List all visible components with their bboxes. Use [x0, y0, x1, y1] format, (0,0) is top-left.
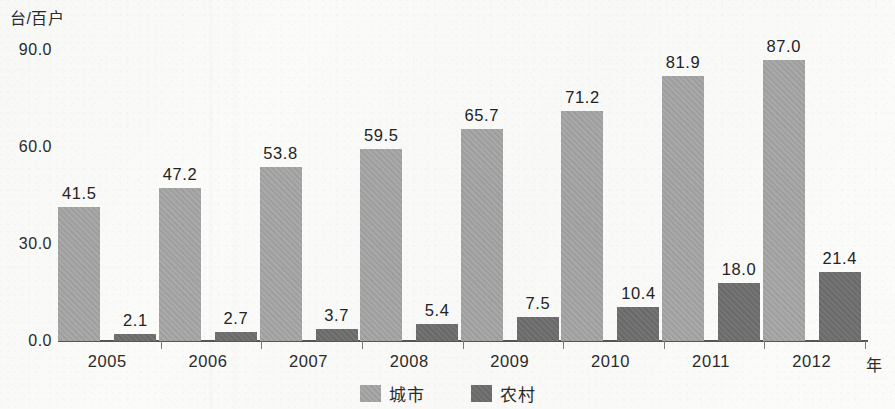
bar-value-label: 2.1: [123, 311, 148, 330]
bar-group: 81.918.0: [664, 50, 765, 341]
y-axis-tick-label: 60.0: [0, 138, 52, 156]
bar-city: 71.2: [561, 50, 603, 341]
x-axis-tick: [764, 341, 765, 349]
legend-label: 农村: [500, 381, 536, 406]
bar-rect: [662, 76, 704, 341]
bar-rural: 7.5: [517, 50, 559, 341]
bar-rural: 10.4: [617, 50, 659, 341]
bar-city: 87.0: [763, 50, 805, 341]
bar-rect: [819, 272, 861, 341]
bar-rect: [416, 324, 458, 341]
bar-rect: [58, 207, 100, 341]
legend-swatch-icon: [360, 385, 381, 402]
y-axis-tick-label: 30.0: [0, 235, 52, 253]
bar-group: 65.77.5: [463, 50, 564, 341]
bar-city: 81.9: [662, 50, 704, 341]
y-axis-tick-label: 90.0: [0, 41, 52, 59]
bar-group: 87.021.4: [764, 50, 865, 341]
bar-city: 53.8: [260, 50, 302, 341]
bar-rect: [617, 307, 659, 341]
x-axis-tick: [463, 341, 464, 349]
legend-swatch-icon: [471, 385, 492, 402]
x-axis-label: 2012: [792, 352, 831, 371]
x-axis-label: 2008: [390, 352, 429, 371]
bar-value-label: 41.5: [62, 184, 97, 203]
legend-item: 城市: [360, 381, 425, 406]
bar-chart: 台/百户 90.060.030.00.0 41.52.147.22.753.83…: [0, 0, 895, 409]
bar-value-label: 87.0: [766, 37, 801, 56]
x-axis-label: 2009: [490, 352, 529, 371]
bar-rural: 21.4: [819, 50, 861, 341]
bar-value-label: 10.4: [621, 284, 656, 303]
bar-group: 53.83.7: [261, 50, 362, 341]
bar-group: 59.55.4: [362, 50, 463, 341]
bar-group: 41.52.1: [60, 50, 161, 341]
x-axis-unit-label: 年: [866, 352, 882, 376]
bar-value-label: 47.2: [163, 165, 198, 184]
bar-rural: 2.7: [215, 50, 257, 341]
y-axis-tick-label: 0.0: [0, 332, 52, 350]
bar-city: 59.5: [360, 50, 402, 341]
bar-value-label: 5.4: [425, 301, 450, 320]
y-axis-unit-label: 台/百户: [10, 5, 64, 29]
bar-rect: [461, 129, 503, 341]
x-axis-tick: [865, 341, 866, 349]
x-axis-label: 2011: [692, 352, 730, 371]
bar-value-label: 7.5: [525, 294, 550, 313]
bar-rect: [114, 334, 156, 341]
plot-area: 41.52.147.22.753.83.759.55.465.77.571.21…: [60, 50, 865, 341]
bar-value-label: 18.0: [722, 260, 757, 279]
chart-legend: 城市农村: [0, 381, 895, 406]
bar-group: 71.210.4: [563, 50, 664, 341]
x-axis-tick: [261, 341, 262, 349]
x-axis-label: 2006: [188, 352, 227, 371]
bar-rect: [561, 111, 603, 341]
x-axis-tick: [563, 341, 564, 349]
bar-value-label: 59.5: [364, 126, 399, 145]
x-axis-label: 2010: [591, 352, 630, 371]
x-axis-label: 2007: [289, 352, 328, 371]
bar-city: 47.2: [159, 50, 201, 341]
bar-rect: [159, 188, 201, 341]
bar-city: 41.5: [58, 50, 100, 341]
bar-rural: 3.7: [316, 50, 358, 341]
bar-value-label: 21.4: [822, 249, 857, 268]
bar-rural: 5.4: [416, 50, 458, 341]
legend-item: 农村: [471, 381, 536, 406]
bar-rect: [260, 167, 302, 341]
bar-value-label: 3.7: [324, 306, 349, 325]
x-axis-tick: [362, 341, 363, 349]
bar-rural: 2.1: [114, 50, 156, 341]
bar-rect: [517, 317, 559, 341]
legend-label: 城市: [389, 381, 425, 406]
bar-rural: 18.0: [718, 50, 760, 341]
bar-value-label: 53.8: [263, 144, 298, 163]
bar-value-label: 71.2: [565, 88, 600, 107]
bar-rect: [718, 283, 760, 341]
x-axis-tick: [664, 341, 665, 349]
bar-value-label: 65.7: [465, 106, 500, 125]
bar-value-label: 2.7: [224, 309, 249, 328]
x-axis-label: 2005: [88, 352, 127, 371]
bar-group: 47.22.7: [161, 50, 262, 341]
x-axis-tick: [161, 341, 162, 349]
bar-rect: [215, 332, 257, 341]
bar-city: 65.7: [461, 50, 503, 341]
bar-rect: [316, 329, 358, 341]
bar-rect: [360, 149, 402, 341]
bar-rect: [763, 60, 805, 341]
bar-value-label: 81.9: [666, 53, 701, 72]
